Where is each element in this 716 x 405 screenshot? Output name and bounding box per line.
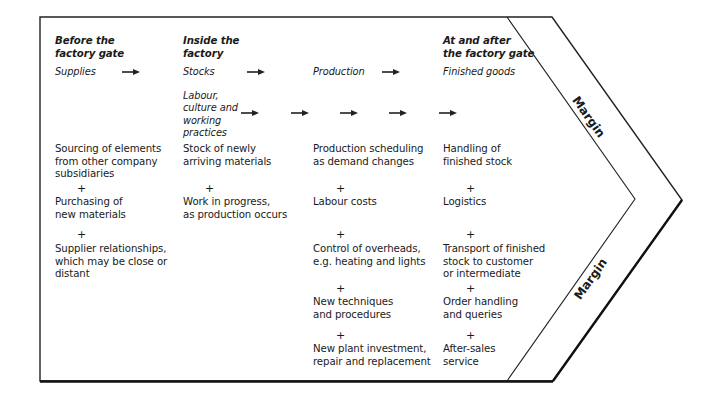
item-work-in-progress: Work in progress, as production occurs [183,196,287,221]
plus-icon: + [466,330,475,341]
arrow-right-icon [389,110,407,116]
item-logistics: Logistics [443,196,486,209]
subheading-production: Production [313,66,365,79]
heading-inside-factory: Inside the factory [183,35,239,60]
item-supplier-relationships: Supplier relationships, which may be clo… [55,243,167,281]
arrow-right-icon [247,69,265,75]
arrow-right-icon [241,110,259,116]
arrow-right-icon [122,69,140,75]
item-production-scheduling: Production scheduling as demand changes [313,143,423,168]
plus-icon: + [336,283,345,294]
subheading-finished-goods: Finished goods [443,66,515,79]
plus-icon: + [77,229,86,240]
arrow-right-icon [291,110,309,116]
heading-at-after-factory-gate: At and after the factory gate [443,35,534,60]
plus-icon: + [336,330,345,341]
item-control-overheads: Control of overheads, e.g. heating and l… [313,243,425,268]
plus-icon: + [77,183,86,194]
item-handling-finished-stock: Handling of finished stock [443,143,512,168]
plus-icon: + [336,183,345,194]
item-after-sales: After-sales service [443,343,495,368]
plus-icon: + [466,183,475,194]
item-stock-newly-arriving: Stock of newly arriving materials [183,143,271,168]
item-sourcing: Sourcing of elements from other company … [55,143,161,181]
item-labour-costs: Labour costs [313,196,377,209]
heading-before-factory-gate: Before the factory gate [55,35,124,60]
arrow-right-icon [382,69,400,75]
plus-icon: + [205,183,214,194]
plus-icon: + [336,229,345,240]
arrow-right-icon [439,110,457,116]
arrow-right-icon [340,110,358,116]
item-order-handling: Order handling and queries [443,296,518,321]
item-new-plant-investment: New plant investment, repair and replace… [313,343,431,368]
subheading-supplies: Supplies [55,66,96,79]
subheading-labour-culture: Labour, culture and working practices [183,90,238,139]
plus-icon: + [466,283,475,294]
item-purchasing: Purchasing of new materials [55,196,126,221]
item-new-techniques: New techniques and procedures [313,296,393,321]
item-transport: Transport of finished stock to customer … [443,243,545,281]
plus-icon: + [466,229,475,240]
subheading-stocks: Stocks [183,66,215,79]
